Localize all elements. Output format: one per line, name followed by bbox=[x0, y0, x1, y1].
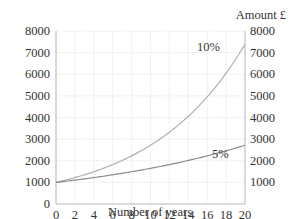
x-tick-label: 18 bbox=[220, 208, 233, 219]
y-tick-label-right: 5000 bbox=[250, 89, 275, 103]
y-tick-label-right: 2000 bbox=[250, 154, 275, 168]
y-tick-label-left: 5000 bbox=[25, 89, 50, 103]
y-tick-label-right: 7000 bbox=[250, 46, 275, 60]
y-tick-label-right: 8000 bbox=[250, 24, 275, 38]
y-tick-label-right: 1000 bbox=[250, 175, 275, 189]
y-tick-label-right: 4000 bbox=[250, 111, 275, 125]
x-tick-label: 20 bbox=[239, 208, 252, 219]
y-tick-label-left: 4000 bbox=[25, 111, 50, 125]
y-tick-label-left: 1000 bbox=[25, 175, 50, 189]
x-tick-label: 4 bbox=[91, 208, 98, 219]
x-tick-label: 0 bbox=[53, 208, 59, 219]
compound-interest-chart: 010002000300040005000600070008000 100020… bbox=[0, 0, 294, 219]
y-tick-label-left: 8000 bbox=[25, 24, 50, 38]
x-tick-label: 2 bbox=[72, 208, 78, 219]
series-label-5-percent: 5% bbox=[212, 147, 229, 161]
y-tick-label-right: 3000 bbox=[250, 132, 275, 146]
grid-lines bbox=[56, 31, 245, 204]
y-tick-label-left: 0 bbox=[44, 197, 50, 211]
y-axis-left-ticks: 010002000300040005000600070008000 bbox=[25, 24, 50, 211]
x-axis-title: Number of years bbox=[108, 205, 192, 219]
y-tick-label-left: 7000 bbox=[25, 46, 50, 60]
y-tick-label-left: 6000 bbox=[25, 67, 50, 81]
y-axis-right-ticks: 10002000300040005000600070008000 bbox=[250, 24, 275, 189]
y-tick-label-left: 3000 bbox=[25, 132, 50, 146]
y-axis-title: Amount £ bbox=[236, 8, 286, 22]
y-tick-label-right: 6000 bbox=[250, 67, 275, 81]
y-tick-label-left: 2000 bbox=[25, 154, 50, 168]
x-tick-label: 16 bbox=[201, 208, 214, 219]
series-label-10-percent: 10% bbox=[197, 40, 220, 54]
